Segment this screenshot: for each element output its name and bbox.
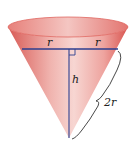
cone-opening xyxy=(8,17,128,37)
cone-body xyxy=(8,27,128,138)
radius-label-right: r xyxy=(95,36,101,49)
radius-label-left: r xyxy=(47,36,53,49)
height-label: h xyxy=(72,73,79,86)
cone-diagram: r r h 2r xyxy=(0,0,135,147)
slant-label: 2r xyxy=(103,96,117,109)
